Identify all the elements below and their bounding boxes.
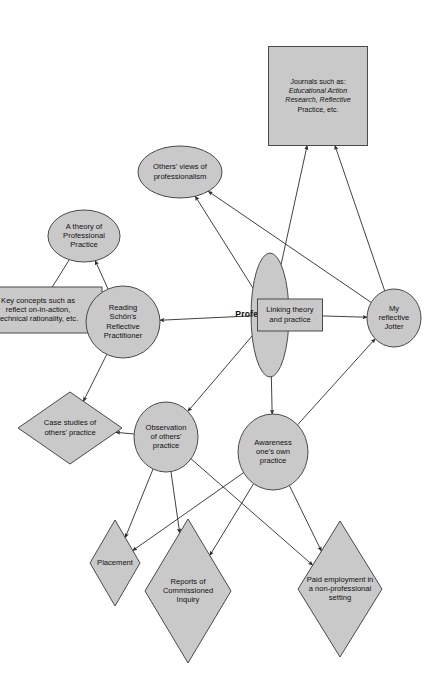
node-linking-theory[interactable]: Linking theoryand practice bbox=[258, 299, 323, 331]
edge-key-concepts-to-theory-professional-practice bbox=[52, 260, 69, 287]
edge-my-reflective-jotter-to-journals bbox=[335, 146, 385, 291]
node-label-line: Practitioner bbox=[104, 331, 143, 340]
edge-reading-schon-to-case-studies bbox=[83, 354, 106, 401]
edge-professionalism-to-journals bbox=[281, 146, 307, 265]
node-label-line: technical rationality, etc. bbox=[0, 314, 78, 323]
node-label-line: Research, Reflective bbox=[285, 96, 351, 104]
edge-observation-others-to-placement bbox=[125, 469, 153, 538]
node-awareness-own[interactable]: Awarenessone's ownpractice bbox=[238, 414, 308, 490]
node-label-line: one's own bbox=[256, 447, 290, 456]
node-label-line: reflect on-in-action, bbox=[6, 305, 71, 314]
node-label-line: Reports of bbox=[170, 577, 206, 586]
node-label-line: practice bbox=[153, 441, 180, 450]
node-label-line: Professional bbox=[63, 231, 105, 240]
edge-my-reflective-jotter-to-others-views bbox=[208, 191, 371, 302]
node-label-line: Jotter bbox=[385, 322, 404, 331]
node-label-line: reflective bbox=[379, 313, 409, 322]
node-case-studies[interactable]: Case studies ofothers' practice bbox=[18, 392, 122, 464]
node-label-line: Educational Action bbox=[289, 87, 348, 95]
node-label-line: Journals such as: bbox=[290, 78, 345, 86]
edge-awareness-own-to-my-reflective-jotter bbox=[298, 339, 376, 425]
edge-observation-others-to-case-studies bbox=[116, 432, 134, 434]
node-label-line: professionalism bbox=[154, 172, 207, 181]
node-reports-inquiry[interactable]: Reports ofCommissionedInquiry bbox=[145, 519, 231, 663]
node-observation-others[interactable]: Observationof others'practice bbox=[134, 402, 198, 472]
node-label-line: of others' bbox=[151, 432, 183, 441]
concept-map-canvas: Key concepts such asreflect on-in-action… bbox=[0, 0, 436, 692]
node-paid-employment[interactable]: Paid employment ina non-professionalsett… bbox=[298, 521, 382, 657]
node-label-line: Key concepts such as bbox=[1, 296, 75, 305]
node-label-line: A theory of bbox=[66, 222, 103, 231]
edge-reading-schon-to-theory-professional-practice bbox=[95, 261, 108, 289]
node-label-line: My bbox=[389, 304, 399, 313]
node-label-line: Reading bbox=[109, 303, 137, 312]
node-label-line: Observation bbox=[146, 423, 187, 432]
node-reading-schon[interactable]: ReadingSchön'sReflectivePractitioner bbox=[86, 286, 160, 358]
node-journals[interactable]: Journals such as:Educational ActionResea… bbox=[219, 0, 417, 195]
node-label-line: and practice bbox=[269, 315, 310, 324]
node-label-line: setting bbox=[329, 593, 351, 602]
node-label-line: Practice bbox=[70, 240, 97, 249]
edge-professionalism-to-others-views bbox=[195, 196, 253, 288]
node-label-line: a non-professional bbox=[309, 584, 372, 593]
edge-layer bbox=[52, 146, 384, 566]
node-my-reflective-jotter[interactable]: MyreflectiveJotter bbox=[367, 289, 421, 347]
node-layer: Key concepts such asreflect on-in-action… bbox=[0, 0, 421, 663]
edge-professionalism-to-observation-others bbox=[188, 336, 252, 411]
node-label-line: Schön's bbox=[110, 312, 137, 321]
edge-observation-others-to-reports-inquiry bbox=[171, 472, 180, 533]
node-label-line: Awareness bbox=[254, 438, 292, 447]
node-label-line: Linking theory bbox=[266, 305, 313, 314]
edge-linking-theory-to-my-reflective-jotter bbox=[323, 316, 368, 317]
edge-awareness-own-to-paid-employment bbox=[289, 486, 321, 551]
node-placement[interactable]: Placement bbox=[90, 520, 140, 606]
node-label-line: Commissioned bbox=[163, 586, 213, 595]
concept-map-svg: Key concepts such asreflect on-in-action… bbox=[0, 0, 436, 692]
node-label-line: Others' views of bbox=[153, 162, 208, 171]
node-label-line: Reflective bbox=[106, 322, 139, 331]
node-label-line: practice bbox=[260, 456, 287, 465]
node-others-views[interactable]: Others' views ofprofessionalism bbox=[138, 146, 222, 198]
node-label-line: Placement bbox=[97, 558, 134, 567]
edge-professionalism-to-awareness-own bbox=[271, 377, 272, 414]
node-label-line: others' practice bbox=[44, 428, 95, 437]
node-label-line: Practice, etc. bbox=[297, 106, 338, 114]
node-label-line: Case studies of bbox=[44, 418, 97, 427]
node-label-line: Paid employment in bbox=[307, 575, 374, 584]
node-theory-professional-practice[interactable]: A theory ofProfessionalPractice bbox=[48, 210, 120, 262]
node-label-line: Inquiry bbox=[177, 595, 200, 604]
